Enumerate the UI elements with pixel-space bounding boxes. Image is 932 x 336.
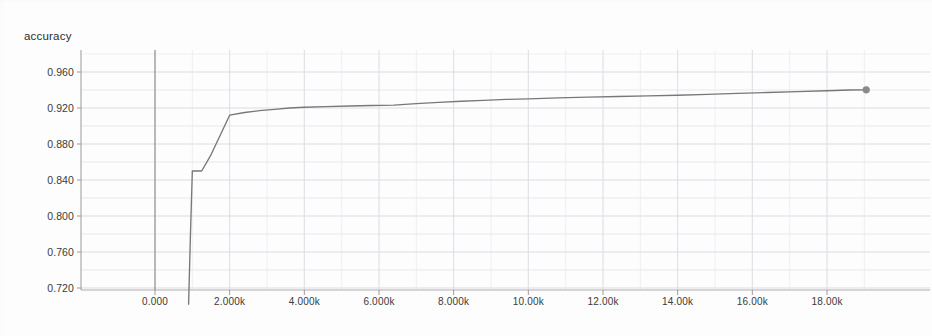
y-axis-tick-label: 0.800 <box>26 210 74 222</box>
x-axis-tick-label: 0.000 <box>142 296 168 307</box>
x-axis-tick-label: 16.00k <box>737 296 768 307</box>
series-lines <box>189 90 867 304</box>
major-gridlines <box>81 50 930 290</box>
x-axis-tick-label: 4.000k <box>289 296 320 307</box>
x-axis-tick-label: 2.000k <box>214 296 245 307</box>
minor-gridlines <box>81 50 930 290</box>
y-axis-tick-label: 0.960 <box>26 66 74 78</box>
x-axis-tick-label: 10.00k <box>513 296 544 307</box>
x-axis-tick-label: 12.00k <box>587 296 618 307</box>
x-axis-tick-label: 18.00k <box>811 296 842 307</box>
y-axis-tick-label: 0.880 <box>26 138 74 150</box>
y-axis-tick-label: 0.720 <box>26 282 74 294</box>
series-end-markers <box>863 86 870 93</box>
y-axis-tick-label: 0.840 <box>26 174 74 186</box>
accuracy-chart-panel: accuracy 0.9600.9200.8800.8400.8000.7600… <box>0 0 932 336</box>
axis-lines <box>81 50 930 290</box>
y-axis-tick-label: 0.920 <box>26 102 74 114</box>
chart-canvas <box>0 0 932 336</box>
x-axis-tick-label: 6.000k <box>363 296 394 307</box>
x-axis-tick-label: 14.00k <box>662 296 693 307</box>
x-axis-tick-label: 8.000k <box>438 296 469 307</box>
y-axis-tick-label: 0.760 <box>26 246 74 258</box>
